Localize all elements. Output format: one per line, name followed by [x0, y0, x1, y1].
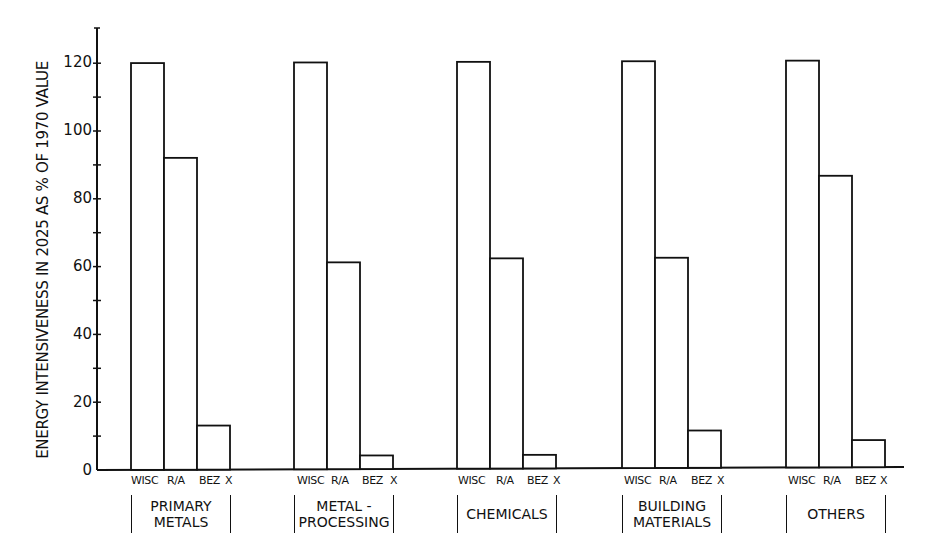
bar-wisc: [294, 62, 327, 469]
bar-r-a: [819, 176, 852, 468]
bar-label: BEZ: [691, 474, 712, 487]
bar-wisc: [457, 62, 490, 469]
category-label-chemicals: CHEMICALS: [457, 495, 557, 533]
bar-label: R/A: [659, 474, 677, 487]
bar-wisc: [786, 61, 819, 468]
bar-bez-x: [688, 431, 721, 468]
bar-label: X: [225, 474, 232, 487]
bar-label: X: [880, 474, 887, 487]
bar-bez-x: [197, 426, 230, 470]
bar-label: X: [390, 474, 397, 487]
bar-r-a: [490, 258, 523, 468]
bar-label: R/A: [331, 474, 349, 487]
category-label-primary-metals: PRIMARY METALS: [131, 495, 231, 533]
bar-bez-x: [852, 440, 885, 467]
bar-label: BEZ: [855, 474, 876, 487]
bar-label: WISC: [297, 474, 324, 487]
y-tick-label: 80: [52, 189, 92, 207]
bar-label: WISC: [458, 474, 485, 487]
bar-label: WISC: [624, 474, 651, 487]
bar-label: BEZ: [527, 474, 548, 487]
bar-label: X: [717, 474, 724, 487]
category-label-others: OTHERS: [786, 495, 886, 533]
category-label-building-materials: BUILDING MATERIALS: [622, 495, 722, 533]
bar-label: X: [553, 474, 560, 487]
y-axis-label: ENERGY INTENSIVENESS IN 2025 AS % OF 197…: [34, 50, 52, 470]
y-tick-label: 100: [52, 121, 92, 139]
bar-bez-x: [523, 455, 556, 469]
bar-label: WISC: [788, 474, 815, 487]
bar-r-a: [164, 158, 197, 470]
bar-label: R/A: [496, 474, 514, 487]
bar-chart: ENERGY INTENSIVENESS IN 2025 AS % OF 197…: [0, 0, 934, 557]
bar-label: BEZ: [199, 474, 220, 487]
y-tick-label: 40: [52, 325, 92, 343]
bar-label: R/A: [823, 474, 841, 487]
y-tick-label: 60: [52, 257, 92, 275]
bar-label: R/A: [167, 474, 185, 487]
bar-r-a: [655, 258, 688, 468]
bar-bez-x: [360, 455, 393, 469]
y-tick-label: 120: [52, 53, 92, 71]
bar-wisc: [622, 61, 655, 468]
bar-label: WISC: [131, 474, 158, 487]
bar-wisc: [131, 63, 164, 470]
bar-label: BEZ: [362, 474, 383, 487]
category-label-metal-processing: METAL - PROCESSING: [294, 495, 394, 533]
y-tick-label: 0: [52, 461, 92, 479]
y-tick-label: 20: [52, 393, 92, 411]
bar-r-a: [327, 262, 360, 469]
